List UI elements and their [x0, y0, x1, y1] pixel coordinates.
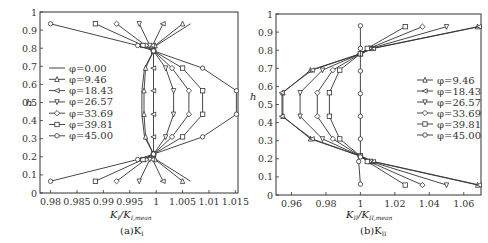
y-tick-label: 0.2 — [22, 151, 37, 162]
data-marker — [151, 152, 155, 156]
x-tick-label: 0.98 — [315, 198, 336, 209]
x-tick-label: 1.015 — [222, 196, 249, 207]
data-marker — [135, 43, 139, 47]
y-axis-label-b: h — [250, 91, 256, 102]
data-marker — [93, 22, 97, 26]
legend-item: φ=45.00 — [49, 130, 113, 141]
data-marker — [137, 179, 141, 184]
legend-label: φ=33.69 — [69, 108, 113, 119]
data-marker — [171, 89, 175, 94]
y-tick-label: 0.6 — [22, 79, 37, 90]
y-tick-label: 0.6 — [258, 81, 273, 92]
legend-label: φ=45.00 — [437, 130, 481, 141]
legend-label: φ=33.69 — [437, 108, 481, 119]
x-tick-label: 0.995 — [116, 196, 143, 207]
legend-a: φ=0.00φ=9.46φ=18.43φ=26.57φ=33.69φ=39.81… — [49, 63, 113, 142]
data-marker — [338, 68, 342, 72]
data-marker — [54, 111, 59, 116]
data-marker — [358, 182, 362, 186]
y-tick-label: 0.1 — [258, 171, 273, 182]
legend-item: φ=26.57 — [417, 97, 481, 108]
legend-label: φ=45.00 — [69, 130, 113, 141]
data-marker — [55, 134, 59, 138]
legend-label: φ=26.57 — [69, 96, 113, 107]
x-axis-label-a: KI/KI,mean — [109, 209, 152, 221]
x-tick-label: 1 — [357, 198, 363, 209]
x-tick-label: 1.02 — [384, 198, 405, 209]
data-marker — [422, 89, 427, 93]
data-marker — [423, 122, 427, 126]
panel-b-kII-chart: 00.10.20.30.40.50.60.70.80.91 0.960.9811… — [250, 9, 481, 238]
legend-item: φ=18.43 — [417, 86, 481, 97]
y-axis-label-a: h — [26, 97, 32, 108]
data-marker — [200, 66, 204, 70]
data-marker — [54, 88, 59, 92]
legend-item: φ=39.81 — [49, 119, 113, 130]
y-tick-label: 0.9 — [258, 27, 273, 38]
x-tick-label: 1.04 — [419, 198, 440, 209]
legend-label: φ=18.43 — [437, 86, 481, 97]
y-tick-label: 1 — [31, 7, 37, 18]
data-marker — [358, 24, 362, 28]
data-marker — [171, 112, 175, 117]
data-marker — [315, 90, 320, 95]
y-tick-label: 0.8 — [258, 45, 273, 56]
x-tick-label: 1 — [153, 196, 159, 207]
legend-label: φ=39.81 — [437, 119, 481, 130]
data-marker — [142, 112, 146, 117]
y-tick-label: 0.9 — [22, 25, 37, 36]
data-marker — [403, 24, 407, 28]
data-marker — [444, 183, 448, 188]
data-marker — [338, 137, 342, 141]
data-marker — [234, 112, 238, 116]
legend-item: φ=18.43 — [49, 85, 113, 96]
legend-label: φ=9.46 — [69, 74, 107, 85]
legend-item: φ=26.57 — [49, 96, 113, 107]
data-marker — [163, 66, 167, 71]
y-tick-label: 0.5 — [258, 99, 273, 110]
x-axis-label-b: KII/KII,mean — [345, 209, 393, 221]
data-marker — [55, 122, 59, 126]
y-tick-label: 0.8 — [22, 43, 37, 54]
y-tick-label: 0.4 — [22, 115, 37, 126]
legend-label: φ=39.81 — [69, 119, 113, 130]
series-4500 — [356, 24, 362, 187]
data-marker — [422, 110, 427, 115]
legend-item: φ=9.46 — [417, 75, 475, 86]
x-tick-label: 0.98 — [40, 196, 61, 207]
x-tick-label: 0.985 — [63, 196, 90, 207]
series-3981 — [327, 24, 407, 187]
data-marker — [356, 159, 360, 163]
data-marker — [298, 91, 302, 96]
data-marker — [48, 22, 52, 26]
data-marker — [420, 182, 425, 187]
data-marker — [365, 46, 369, 50]
series-1843 — [150, 22, 165, 184]
data-marker — [315, 114, 320, 119]
data-marker — [420, 24, 425, 29]
data-marker — [180, 135, 184, 139]
legend-label: φ=9.46 — [437, 75, 475, 86]
data-marker — [403, 183, 407, 187]
legend-item: φ=45.00 — [417, 130, 481, 141]
x-tick-label: 1.06 — [453, 198, 474, 209]
data-marker — [234, 89, 238, 93]
data-marker — [200, 135, 204, 139]
data-marker — [135, 157, 139, 161]
data-marker — [358, 46, 362, 50]
y-tick-label: 0 — [267, 190, 273, 201]
data-marker — [423, 133, 427, 137]
y-tick-label: 0.1 — [22, 169, 37, 180]
y-tick-label: 0.4 — [258, 117, 273, 128]
legend-item: φ=39.81 — [417, 119, 481, 130]
legend-label: φ=0.00 — [69, 63, 107, 74]
x-tick-label: 1.01 — [198, 196, 219, 207]
legend-item: φ=33.69 — [49, 108, 113, 119]
legend-label: φ=26.57 — [437, 97, 481, 108]
y-tick-label: 0.3 — [258, 135, 273, 146]
data-marker — [358, 69, 362, 73]
data-marker — [160, 22, 165, 26]
data-marker — [358, 137, 362, 141]
data-marker — [358, 155, 362, 159]
legend-label: φ=18.43 — [69, 85, 113, 96]
